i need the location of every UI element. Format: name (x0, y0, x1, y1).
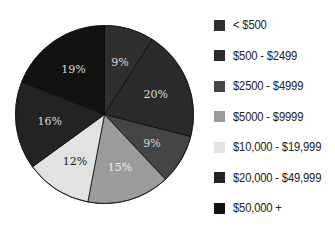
legend-label: $5000 - $9999 (233, 110, 303, 124)
slice-label: 15% (108, 161, 132, 174)
legend-label: $10,000 - $19,999 (233, 140, 321, 154)
chart-legend: < $500 $500 - $2499 $2500 - $4999 $5000 … (214, 10, 331, 224)
legend-item: $2500 - $4999 (214, 71, 331, 102)
pie-chart: 9%20%9%15%12%16%19% (0, 0, 210, 228)
legend-item: $20,000 - $49,999 (214, 163, 331, 194)
slice-label: 16% (38, 115, 62, 128)
slice-label: 20% (144, 88, 168, 101)
legend-swatch (214, 111, 225, 122)
legend-item: < $500 (214, 10, 331, 41)
slice-label: 9% (143, 137, 160, 150)
legend-label: $50,000 + (233, 201, 282, 215)
slice-label: 19% (61, 63, 85, 76)
legend-item: $500 - $2499 (214, 41, 331, 72)
legend-label: $2500 - $4999 (233, 79, 303, 93)
legend-swatch (214, 50, 225, 61)
legend-swatch (214, 20, 225, 31)
slice-label: 9% (111, 56, 128, 69)
slice-label: 12% (63, 155, 87, 168)
legend-item: $50,000 + (214, 193, 331, 224)
legend-swatch (214, 81, 225, 92)
legend-swatch (214, 172, 225, 183)
legend-label: < $500 (233, 18, 267, 32)
legend-item: $10,000 - $19,999 (214, 132, 331, 163)
legend-label: $20,000 - $49,999 (233, 171, 321, 185)
legend-label: $500 - $2499 (233, 49, 297, 63)
legend-swatch (214, 203, 225, 214)
legend-swatch (214, 142, 225, 153)
legend-item: $5000 - $9999 (214, 102, 331, 133)
